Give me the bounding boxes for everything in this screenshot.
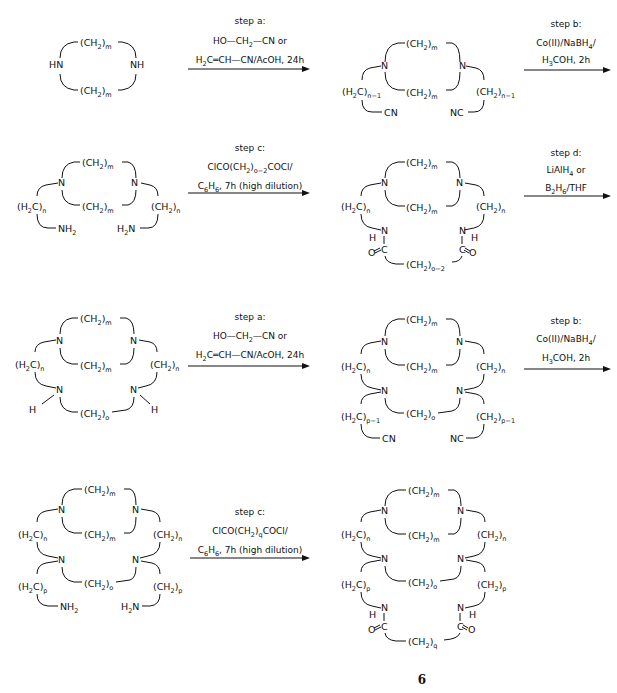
svg-text:(H2C)n: (H2C)n [15, 359, 44, 373]
step-a-conditions-row1: step a: HO—CH2—CN or H2C═CH—CN/AcOH, 24h [188, 16, 310, 72]
svg-text:N: N [58, 177, 65, 188]
svg-text:N: N [381, 553, 388, 564]
product-bicyclic-bis-nitrile: (CH2)m N N (CH2)m (H2C)n (CH2)n N N (CH2… [341, 314, 515, 444]
svg-text:(CH2)m: (CH2)m [82, 157, 114, 171]
svg-text:(CH2)p: (CH2)p [153, 581, 182, 595]
svg-text:H: H [29, 404, 36, 415]
svg-text:N: N [132, 504, 139, 515]
svg-text:C6H6, 7h (high dilution): C6H6, 7h (high dilution) [198, 545, 303, 558]
svg-text:(CH2)m: (CH2)m [406, 38, 438, 52]
step-b-conditions-row3: step b: Co(II)/NaBH4/ H3COH, 2h [524, 316, 611, 372]
svg-text:(CH2)m: (CH2)m [406, 314, 438, 328]
svg-text:C: C [457, 621, 464, 632]
svg-text:(H2C)n: (H2C)n [341, 529, 370, 543]
svg-text:(CH2)n: (CH2)n [153, 529, 182, 543]
svg-text:(CH2)m: (CH2)m [82, 201, 114, 215]
svg-text:N: N [459, 225, 466, 236]
svg-text:N: N [381, 225, 388, 236]
svg-text:H: H [369, 232, 376, 243]
svg-text:(CH2)m: (CH2)m [84, 529, 116, 543]
svg-text:H2C═CH—CN/AcOH, 24h: H2C═CH—CN/AcOH, 24h [196, 350, 304, 363]
svg-text:NC: NC [450, 433, 464, 444]
svg-text:(H2C)p: (H2C)p [341, 579, 370, 593]
svg-text:(CH2)n: (CH2)n [150, 359, 179, 373]
svg-text:C6H6, 7h (high dilution): C6H6, 7h (high dilution) [198, 181, 303, 194]
svg-text:C: C [381, 244, 388, 255]
svg-text:N: N [381, 505, 388, 516]
svg-text:LiAlH4 or: LiAlH4 or [546, 165, 585, 178]
svg-text:N: N [457, 602, 464, 613]
reactant-bis-amine: (CH2)m N N (CH2)m (H2C)n NH2 (CH2)n H2N [17, 157, 180, 237]
svg-text:(CH2)n: (CH2)n [477, 529, 506, 543]
svg-text:B2H6/THF: B2H6/THF [545, 183, 587, 196]
product-bis-nitrile: (CH2)m N N (CH2)m (H2C)n−1 CN (CH2)n−1 N… [342, 38, 515, 118]
step-a-conditions-row3: step a: HO—CH2—CN or H2C═CH—CN/AcOH, 24h [188, 312, 310, 369]
svg-text:(H2C)n: (H2C)n [18, 529, 47, 543]
step-d-conditions-row2: step d: LiAlH4 or B2H6/THF [524, 148, 611, 199]
svg-text:H: H [469, 609, 476, 620]
svg-text:(CH2)n: (CH2)n [476, 361, 505, 375]
svg-text:step c:: step c: [235, 507, 265, 517]
step-c-conditions-row4: step c: ClCO(CH2)qCOCl/ C6H6, 7h (high d… [190, 507, 310, 561]
svg-text:Co(II)/NaBH4/: Co(II)/NaBH4/ [536, 334, 596, 347]
svg-text:Co(II)/NaBH4/: Co(II)/NaBH4/ [536, 38, 596, 51]
svg-text:step a:: step a: [235, 312, 266, 322]
svg-text:(CH2)m: (CH2)m [80, 313, 112, 327]
svg-text:(CH2)m: (CH2)m [80, 360, 112, 374]
svg-text:NH2: NH2 [58, 223, 76, 237]
svg-text:(CH2)n: (CH2)n [151, 201, 180, 215]
svg-text:N: N [58, 554, 65, 565]
product-bis-amide: (CH2)m N N (CH2)m (H2C)n (CH2)n N H N H … [341, 157, 505, 273]
svg-text:C: C [459, 244, 466, 255]
svg-text:O: O [368, 624, 375, 635]
svg-text:N: N [457, 553, 464, 564]
step-c-conditions-row2: step c: ClCO(CH2)o−2COCl/ C6H6, 7h (high… [188, 143, 310, 196]
svg-text:(CH2)m: (CH2)m [84, 484, 116, 498]
svg-text:(CH2)m: (CH2)m [406, 157, 438, 171]
svg-text:O: O [468, 624, 475, 635]
svg-text:(H2C)n−1: (H2C)n−1 [342, 86, 381, 100]
svg-text:CN: CN [384, 107, 398, 118]
svg-text:H2C═CH—CN/AcOH, 24h: H2C═CH—CN/AcOH, 24h [196, 55, 304, 68]
svg-text:(CH2)o−2: (CH2)o−2 [406, 259, 445, 273]
svg-text:H2N: H2N [121, 601, 139, 615]
svg-text:ClCO(CH2)o−2COCl/: ClCO(CH2)o−2COCl/ [207, 162, 293, 175]
svg-text:N: N [56, 335, 63, 346]
svg-text:(CH2)n: (CH2)n [476, 201, 505, 215]
svg-text:(CH2)p: (CH2)p [477, 579, 506, 593]
svg-text:(H2C)p−1: (H2C)p−1 [341, 411, 380, 425]
svg-text:(CH2)o: (CH2)o [408, 577, 437, 591]
svg-text:(CH2)n−1: (CH2)n−1 [476, 86, 515, 100]
svg-text:N: N [56, 384, 63, 395]
svg-text:N: N [456, 336, 463, 347]
svg-text:(CH2)o: (CH2)o [84, 578, 113, 592]
product-tricyclic-bis-amide: (CH2)m N N (CH2)m (H2C)n (CH2)n N N (CH2… [341, 485, 506, 650]
svg-text:H: H [151, 404, 158, 415]
svg-text:N: N [131, 177, 138, 188]
svg-text:(H2C)n: (H2C)n [17, 201, 46, 215]
step-b-conditions-row1: step b: Co(II)/NaBH4/ H3COH, 2h [524, 19, 611, 73]
svg-text:step d:: step d: [550, 148, 581, 158]
svg-text:step a:: step a: [235, 16, 266, 26]
svg-text:N: N [381, 336, 388, 347]
svg-text:(CH2)m: (CH2)m [408, 485, 440, 499]
svg-text:N: N [381, 602, 388, 613]
svg-text:H3COH, 2h: H3COH, 2h [542, 353, 590, 366]
svg-text:(CH2)p−1: (CH2)p−1 [476, 411, 515, 425]
svg-text:(CH2)o: (CH2)o [406, 408, 435, 422]
svg-text:H3COH, 2h: H3COH, 2h [542, 55, 590, 68]
svg-text:O: O [368, 247, 375, 258]
svg-text:H: H [369, 609, 376, 620]
svg-text:ClCO(CH2)qCOCl/: ClCO(CH2)qCOCl/ [212, 526, 289, 539]
svg-text:N: N [381, 385, 388, 396]
svg-text:N: N [456, 385, 463, 396]
svg-text:H2N: H2N [117, 223, 135, 237]
reactant-bicyclic-bis-amine: (CH2)m N N (CH2)m (H2C)n (CH2)n N N (CH2… [18, 484, 182, 615]
svg-text:(H2C)n: (H2C)n [341, 361, 370, 375]
svg-text:(CH2)m: (CH2)m [406, 361, 438, 375]
svg-text:(CH2)m: (CH2)m [406, 87, 438, 101]
nh-right-label: NH [130, 59, 144, 70]
svg-text:C: C [381, 621, 388, 632]
svg-text:NH2: NH2 [60, 601, 78, 615]
nh-left-label: HN [49, 59, 63, 70]
